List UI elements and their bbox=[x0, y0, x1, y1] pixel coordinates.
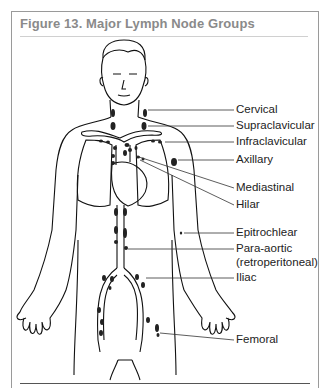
label-epitrochlear: Epitrochlear bbox=[236, 226, 297, 239]
label-iliac: Iliac bbox=[236, 271, 256, 284]
label-hilar: Hilar bbox=[236, 198, 260, 211]
label-supraclavicular: Supraclavicular bbox=[236, 119, 315, 132]
label-para-aortic: Para-aortic bbox=[236, 242, 292, 255]
label-mediastinal: Mediastinal bbox=[236, 181, 294, 194]
bottom-divider bbox=[20, 383, 310, 384]
label-retroperitoneal: (retroperitoneal) bbox=[236, 256, 318, 269]
label-infraclavicular: Infraclavicular bbox=[236, 135, 307, 148]
label-axillary: Axillary bbox=[236, 153, 273, 166]
body-illustration bbox=[0, 0, 327, 388]
label-femoral: Femoral bbox=[236, 333, 278, 346]
label-cervical: Cervical bbox=[236, 103, 278, 116]
